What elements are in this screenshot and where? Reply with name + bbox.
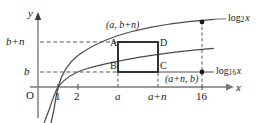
- rect-corner-label-b: B: [110, 61, 117, 71]
- rect-corner-label-d: D: [160, 38, 167, 48]
- rect-corner-label-c: C: [160, 61, 167, 71]
- point-log2-at-16: [200, 20, 205, 25]
- y-tick-label-b: b: [24, 66, 30, 77]
- x-tick-label-1: 1: [55, 91, 61, 102]
- curve-label-log2-base: log: [228, 12, 241, 23]
- curve-label-log2-sub: 2: [241, 16, 245, 24]
- y-axis-label: y: [28, 8, 33, 19]
- curve-label-log2: log2 x: [228, 13, 250, 24]
- curve-label-log16-arg: x: [237, 65, 241, 76]
- y-tick-label-b-plus-n: b+n: [6, 36, 24, 47]
- origin-label: O: [26, 90, 34, 101]
- x-tick-label-2: 2: [74, 91, 80, 102]
- curve-label-log16-base: log: [216, 65, 229, 76]
- x-tick-label-a-plus-n: a+n: [148, 91, 166, 102]
- log-curve-rectangle-figure: y x O b+n b 1 2 a a+n 16 (a, b+n) (a+n, …: [0, 0, 260, 123]
- rect-corner-label-a: A: [110, 38, 117, 48]
- x-tick-label-16: 16: [196, 91, 207, 102]
- y-axis-arrowhead: [35, 12, 41, 20]
- x-axis-arrowhead: [226, 84, 234, 91]
- point-log16-at-16: [200, 70, 205, 75]
- log2-label-leader: [214, 19, 226, 20]
- x-tick-label-a: a: [115, 91, 121, 102]
- curve-label-log16: log16 x: [216, 66, 241, 77]
- x-axis-label: x: [236, 82, 241, 93]
- curve-label-log2-arg: x: [245, 12, 249, 23]
- curve-label-log16-sub: 16: [229, 69, 236, 77]
- point-label-top: (a, b+n): [106, 20, 139, 30]
- log16-curve: [44, 48, 214, 123]
- point-label-right: (a+n, b): [165, 74, 198, 84]
